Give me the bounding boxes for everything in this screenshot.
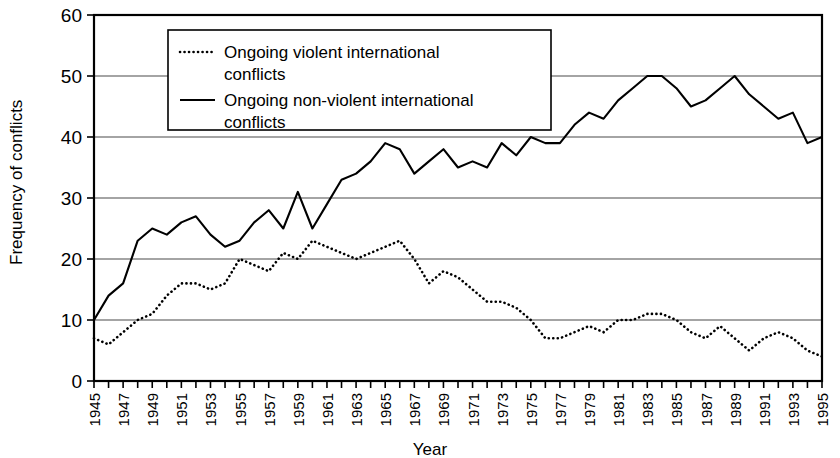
x-tick-label: 1975 — [523, 393, 540, 426]
y-tick-label: 0 — [71, 371, 82, 392]
x-tick-label: 1993 — [785, 393, 802, 426]
y-tick-label: 30 — [61, 188, 82, 209]
legend-label-violent-line1: Ongoing violent international — [224, 43, 439, 62]
legend-label-non-violent-line2: conflicts — [224, 113, 285, 132]
y-tick-label: 20 — [61, 249, 82, 270]
x-tick-label: 1995 — [814, 393, 831, 426]
x-tick-label: 1977 — [552, 393, 569, 426]
x-tick-label: 1989 — [727, 393, 744, 426]
x-tick-label: 1973 — [494, 393, 511, 426]
x-tick-label: 1965 — [377, 393, 394, 426]
x-tick-label: 1945 — [86, 393, 103, 426]
y-tick-labels: 60 50 40 30 20 10 0 — [61, 5, 82, 392]
x-tick-label: 1983 — [639, 393, 656, 426]
x-tick-label: 1981 — [610, 393, 627, 426]
y-tick-label: 50 — [61, 66, 82, 87]
x-tick-label: 1967 — [406, 393, 423, 426]
y-tick-label: 60 — [61, 5, 82, 26]
y-tick-label: 40 — [61, 127, 82, 148]
x-tick-label: 1991 — [756, 393, 773, 426]
chart-figure: Frequency of conflicts 60 50 40 30 20 10… — [0, 0, 840, 458]
x-tick-label: 1985 — [668, 393, 685, 426]
x-tick-labels: 1945194719491951195319551957195919611963… — [86, 393, 831, 426]
x-tick-label: 1957 — [261, 393, 278, 426]
series-ongoing-violent — [94, 241, 822, 357]
x-tick-label: 1963 — [348, 393, 365, 426]
chart-legend: Ongoing violent international conflicts … — [168, 30, 551, 132]
x-tick-label: 1971 — [465, 393, 482, 426]
x-tick-label: 1951 — [173, 393, 190, 426]
x-tick-label: 1987 — [698, 393, 715, 426]
x-tick-label: 1969 — [435, 393, 452, 426]
x-tick-label: 1947 — [115, 393, 132, 426]
x-tick-label: 1949 — [144, 393, 161, 426]
x-tick-label: 1953 — [202, 393, 219, 426]
y-tick-label: 10 — [61, 310, 82, 331]
x-tick-label: 1979 — [581, 393, 598, 426]
y-axis-title: Frequency of conflicts — [7, 100, 26, 265]
x-tick-label: 1959 — [290, 393, 307, 426]
x-tick-label: 1961 — [319, 393, 336, 426]
legend-label-non-violent-line1: Ongoing non-violent international — [224, 91, 474, 110]
x-tick-label: 1955 — [232, 393, 249, 426]
legend-label-violent-line2: conflicts — [224, 65, 285, 84]
x-axis-title: Year — [413, 440, 448, 458]
line-chart: Frequency of conflicts 60 50 40 30 20 10… — [0, 0, 840, 458]
